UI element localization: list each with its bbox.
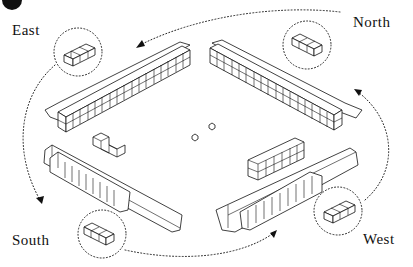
arrowhead-west-icon bbox=[270, 230, 277, 238]
mahjong-table-diagram: East North South West bbox=[0, 0, 413, 267]
die-icon bbox=[192, 134, 198, 141]
south-label: South bbox=[12, 232, 50, 249]
corner-marker-icon bbox=[2, 0, 22, 10]
arrowhead-north-icon bbox=[354, 89, 362, 96]
east-label: East bbox=[12, 22, 40, 39]
south-rack bbox=[44, 145, 182, 232]
north-wall bbox=[210, 40, 362, 130]
east-seat-tiles bbox=[64, 44, 95, 66]
north-seat-tiles bbox=[292, 34, 322, 56]
north-label: North bbox=[353, 14, 391, 31]
dice bbox=[192, 123, 215, 141]
arrow-south-to-west bbox=[125, 232, 275, 256]
diagram-drawing bbox=[0, 0, 413, 267]
south-seat-tiles bbox=[84, 223, 114, 245]
arrow-east-to-south bbox=[23, 65, 55, 200]
west-seat-tiles bbox=[324, 201, 355, 223]
arrowhead-south-icon bbox=[36, 196, 44, 204]
arrow-west-to-north bbox=[358, 92, 389, 200]
west-label: West bbox=[363, 231, 395, 248]
center-left-tile-stack bbox=[93, 133, 125, 157]
arrowhead-east-icon bbox=[136, 40, 145, 48]
die-icon bbox=[209, 123, 215, 130]
